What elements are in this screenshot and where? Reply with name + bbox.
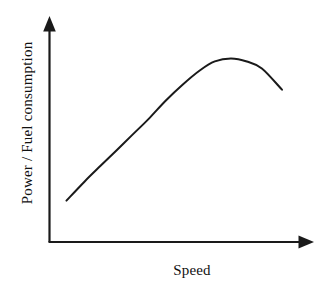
chart-figure: Power / Fuel consumption Speed xyxy=(0,0,330,290)
x-axis-label: Speed xyxy=(173,263,211,278)
chart-canvas xyxy=(0,0,330,290)
y-axis-label: Power / Fuel consumption xyxy=(20,42,35,205)
